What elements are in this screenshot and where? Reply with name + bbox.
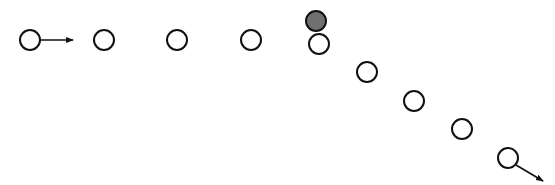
velocity-arrow-2 <box>516 165 543 181</box>
ball-position-8 <box>452 119 472 139</box>
circles-group <box>20 11 518 168</box>
highlighted-ball <box>306 11 326 31</box>
trajectory-diagram <box>0 0 555 185</box>
ball-position-1 <box>20 30 40 50</box>
ball-position-2 <box>94 30 114 50</box>
ball-position-4 <box>241 30 261 50</box>
ball-position-9 <box>498 148 518 168</box>
ball-position-3 <box>167 30 187 50</box>
arrows-group <box>40 40 543 181</box>
ball-position-7 <box>404 91 424 111</box>
ball-position-5 <box>309 34 329 54</box>
ball-position-6 <box>357 62 377 82</box>
